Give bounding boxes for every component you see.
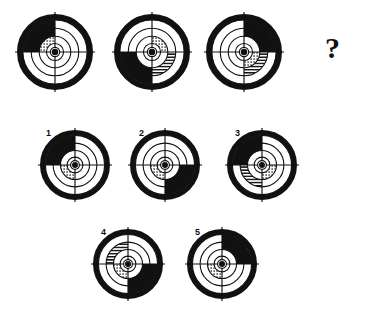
option-label-1: 1 <box>46 129 51 138</box>
option-5[interactable] <box>183 225 261 307</box>
sequence-item-1[interactable] <box>13 10 97 98</box>
option-4[interactable] <box>89 225 167 307</box>
option-2-figure <box>126 126 204 204</box>
sequence-item-3[interactable] <box>202 10 286 98</box>
sequence-1-hub-dot <box>52 49 58 55</box>
option-5-hub-dot <box>219 261 225 267</box>
sequence-3-figure <box>202 10 286 94</box>
sequence-2-figure <box>110 10 194 94</box>
option-1-hub-dot <box>72 162 78 168</box>
answer-placeholder: ? <box>325 33 340 63</box>
option-label-4: 4 <box>101 228 106 237</box>
option-4-hub-dot <box>125 261 131 267</box>
puzzle-canvas: 12345? <box>0 0 368 318</box>
sequence-3-hub-dot <box>241 49 247 55</box>
option-label-3: 3 <box>235 129 240 138</box>
option-1[interactable] <box>36 126 114 208</box>
sequence-1-figure <box>13 10 97 94</box>
option-3[interactable] <box>223 126 301 208</box>
option-3-hub-dot <box>259 162 265 168</box>
option-2[interactable] <box>126 126 204 208</box>
option-label-5: 5 <box>195 228 200 237</box>
option-2-hub-dot <box>162 162 168 168</box>
option-label-2: 2 <box>139 129 144 138</box>
sequence-item-2[interactable] <box>110 10 194 98</box>
sequence-2-hub-dot <box>149 49 155 55</box>
